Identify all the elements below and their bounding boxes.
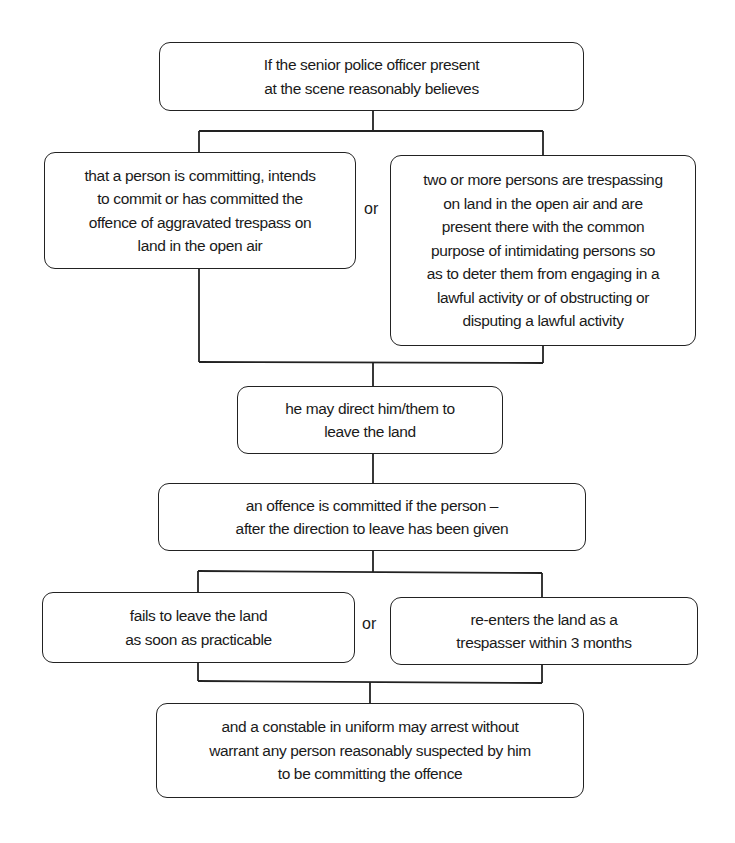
or-label-2: or xyxy=(362,615,376,633)
node-condition: If the senior police officer present at … xyxy=(159,42,584,111)
node-offence-committed: an offence is committed if the person – … xyxy=(158,483,586,551)
node-direction-to-leave: he may direct him/them to leave the land xyxy=(237,386,503,454)
node-arrest-power: and a constable in uniform may arrest wi… xyxy=(156,703,584,798)
node-re-enters-land: re-enters the land as a trespasser withi… xyxy=(390,597,698,665)
or-label-1: or xyxy=(364,200,378,218)
node-belief-aggravated-trespass: that a person is committing, intends to … xyxy=(44,152,356,269)
node-belief-intimidation: two or more persons are trespassing on l… xyxy=(390,155,696,346)
node-fails-to-leave: fails to leave the land as soon as pract… xyxy=(42,592,355,663)
